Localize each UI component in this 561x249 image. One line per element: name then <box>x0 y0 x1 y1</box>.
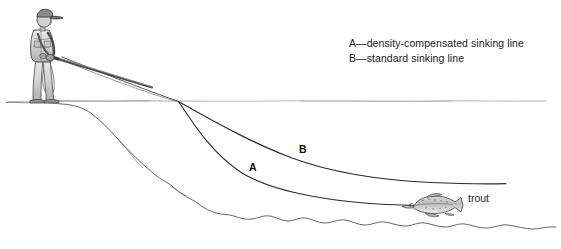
trout-label: trout <box>468 192 489 204</box>
angler-figure <box>30 9 63 103</box>
line-a-label: A <box>249 161 257 173</box>
fishing-line-diagram: A—density-compensated sinking line B—sta… <box>0 0 561 249</box>
legend: A—density-compensated sinking line B—sta… <box>349 36 524 66</box>
standard-sinking-line <box>179 102 507 184</box>
legend-item-b: B—standard sinking line <box>349 51 524 66</box>
fly-line-aerial <box>62 57 179 102</box>
fishing-rod <box>46 55 152 88</box>
trout-illustration <box>397 188 469 222</box>
water-surface-line <box>8 101 546 102</box>
line-b-label: B <box>299 143 307 155</box>
legend-item-a: A—density-compensated sinking line <box>349 36 524 51</box>
lake-bottom-contour <box>6 102 556 229</box>
